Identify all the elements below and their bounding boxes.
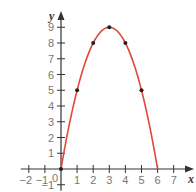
x-axis-label: x [187, 172, 194, 186]
data-point [59, 167, 63, 171]
data-point [75, 88, 79, 92]
x-tick-label: 2 [90, 174, 96, 186]
data-point [140, 88, 144, 92]
y-tick-label: 9 [48, 21, 54, 33]
parabola-chart: −2−11234567−11234567890 x y [0, 0, 196, 192]
data-point [107, 25, 111, 29]
x-tick-label: −2 [20, 174, 33, 186]
y-tick-label: 5 [48, 84, 54, 96]
y-tick-label: 8 [48, 37, 54, 49]
y-tick-label: 1 [48, 147, 54, 159]
y-tick-label: 2 [48, 132, 54, 144]
x-tick-label: 1 [74, 174, 80, 186]
axes [21, 11, 194, 191]
origin-label: 0 [52, 172, 58, 184]
x-tick-label: 6 [155, 174, 161, 186]
x-tick-label: 7 [171, 174, 177, 186]
y-tick-label: 3 [48, 116, 54, 128]
y-axis-label: y [47, 9, 55, 23]
y-tick-label: 6 [48, 69, 54, 81]
y-axis-arrow-icon [58, 11, 65, 20]
parabola-curve [61, 27, 158, 169]
x-tick-label: 5 [138, 174, 144, 186]
x-tick-label: 3 [106, 174, 112, 186]
x-tick-label: 4 [122, 174, 128, 186]
tick-labels: −2−11234567−11234567890 [20, 21, 177, 191]
y-tick-label: 4 [48, 100, 54, 112]
y-tick-label: 7 [48, 53, 54, 65]
data-points [59, 25, 144, 171]
data-point [123, 41, 127, 45]
data-point [91, 41, 95, 45]
